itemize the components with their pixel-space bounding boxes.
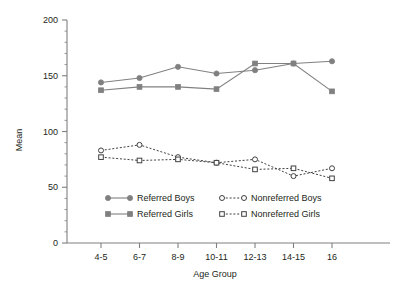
data-point-marker (128, 212, 133, 217)
x-tick-label: 4-5 (94, 252, 107, 262)
data-point-marker (291, 174, 296, 179)
data-point-marker (330, 166, 335, 171)
legend-label: Nonreferred Girls (251, 209, 321, 219)
data-point-marker (214, 87, 219, 92)
data-point-marker (105, 195, 110, 200)
data-point-marker (106, 212, 111, 217)
chart-legend: Referred BoysNonreferred BoysReferred Gi… (105, 193, 322, 219)
data-point-marker (176, 157, 181, 162)
data-point-marker (137, 85, 142, 90)
x-tick-label: 16 (327, 252, 337, 262)
data-point-marker (99, 88, 104, 93)
legend-label: Referred Girls (137, 209, 194, 219)
y-tick-label: 150 (43, 71, 58, 81)
x-tick-label: 12-13 (243, 252, 266, 262)
y-axis-title: Mean (14, 129, 24, 152)
data-point-marker (98, 80, 103, 85)
x-tick-label: 10-11 (205, 252, 227, 262)
series-referred-girls (99, 61, 335, 94)
data-point-marker (137, 142, 142, 147)
data-point-marker (253, 61, 258, 66)
x-axis-title: Age Group (193, 269, 237, 279)
series-nonreferred-girls (99, 155, 335, 181)
data-point-marker (214, 160, 219, 165)
data-point-marker (127, 195, 132, 200)
x-tick-label: 8-9 (171, 252, 184, 262)
data-point-marker (220, 212, 225, 217)
data-point-marker (137, 158, 142, 163)
data-point-marker (330, 89, 335, 94)
data-point-marker (242, 212, 247, 217)
data-point-marker (329, 59, 334, 64)
y-axis-tick-labels: 050100150200 (43, 15, 58, 248)
data-point-marker (253, 157, 258, 162)
y-tick-label: 200 (43, 15, 58, 25)
legend-item-nonreferred-boys[interactable]: Nonreferred Boys (220, 193, 323, 203)
data-point-marker (99, 155, 104, 160)
y-tick-label: 50 (48, 182, 58, 192)
data-point-marker (214, 71, 219, 76)
line-chart: 050100150200 4-56-78-910-1112-1314-1516 … (0, 0, 405, 291)
legend-item-nonreferred-girls[interactable]: Nonreferred Girls (220, 209, 321, 219)
x-axis-tick-labels: 4-56-78-910-1112-1314-1516 (94, 252, 337, 262)
y-tick-label: 100 (43, 127, 58, 137)
data-point-marker (330, 176, 335, 181)
data-point-marker (242, 196, 247, 201)
data-point-marker (175, 64, 180, 69)
data-point-marker (137, 75, 142, 80)
legend-item-referred-girls[interactable]: Referred Girls (106, 209, 194, 219)
series-referred-boys (98, 59, 334, 85)
data-point-marker (253, 167, 258, 172)
data-point-marker (291, 166, 296, 171)
data-point-marker (291, 61, 296, 66)
data-point-marker (176, 85, 181, 90)
x-tick-label: 6-7 (133, 252, 146, 262)
data-point-marker (220, 196, 225, 201)
data-point-marker (99, 148, 104, 153)
legend-item-referred-boys[interactable]: Referred Boys (105, 193, 195, 203)
series-layer (98, 59, 334, 181)
legend-label: Nonreferred Boys (251, 193, 322, 203)
chart-container: 050100150200 4-56-78-910-1112-1314-1516 … (0, 0, 405, 291)
x-tick-label: 14-15 (282, 252, 305, 262)
legend-label: Referred Boys (137, 193, 195, 203)
data-point-marker (252, 68, 257, 73)
y-tick-label: 0 (53, 238, 58, 248)
